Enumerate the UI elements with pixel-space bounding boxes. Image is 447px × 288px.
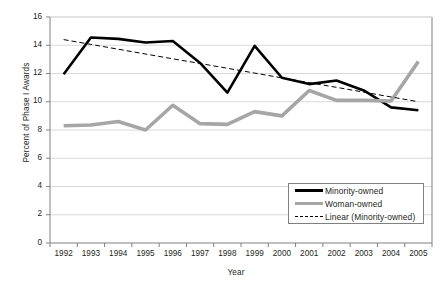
y-tick-label: 10 xyxy=(20,97,42,105)
y-tick-label: 6 xyxy=(20,154,42,162)
legend-label-woman-owned: Woman-owned xyxy=(325,199,382,209)
y-tick-label: 8 xyxy=(20,126,42,134)
y-tick-label: 4 xyxy=(20,182,42,190)
y-tick-label: 16 xyxy=(20,13,42,21)
x-tick-label: 2005 xyxy=(401,250,435,258)
chart-plot-area xyxy=(0,0,447,288)
legend-line-swatch-minority-icon xyxy=(293,185,325,196)
legend-label-linear-minority-owned: Linear (Minority-owned) xyxy=(325,212,415,222)
y-tick-label: 14 xyxy=(20,41,42,49)
legend-item-woman-owned: Woman-owned xyxy=(289,197,423,210)
legend-label-minority-owned: Minority-owned xyxy=(325,186,383,196)
legend-dashed-swatch-linear-icon xyxy=(293,211,325,222)
legend-item-linear-trend: Linear (Minority-owned) xyxy=(289,210,423,223)
legend-line-swatch-woman-icon xyxy=(293,198,325,209)
chart-legend: Minority-owned Woman-owned Linear (Minor… xyxy=(288,183,424,224)
y-tick-label: 2 xyxy=(20,210,42,218)
y-tick-label: 0 xyxy=(20,239,42,247)
series-line-linear-minority-owned xyxy=(64,40,419,102)
chart-figure: Percent of Phase I Awards Year 024681012… xyxy=(0,0,447,288)
legend-item-minority-owned: Minority-owned xyxy=(289,184,423,197)
y-tick-label: 12 xyxy=(20,69,42,77)
